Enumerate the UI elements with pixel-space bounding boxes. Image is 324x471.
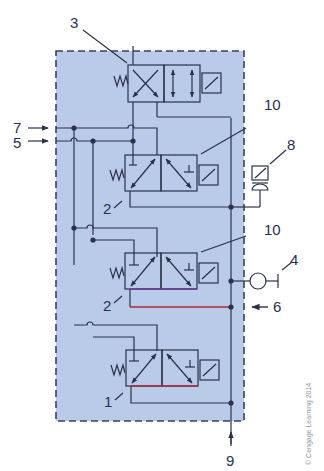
label-2-upper: 2 <box>103 200 111 217</box>
label-3: 3 <box>70 14 78 31</box>
label-2-middle: 2 <box>103 297 111 314</box>
label-8: 8 <box>287 136 295 153</box>
label-10-middle: 10 <box>264 221 281 238</box>
label-1: 1 <box>104 393 112 410</box>
label-4: 4 <box>290 251 298 268</box>
manifold-panel <box>56 51 244 421</box>
copyright: © Cengage Learning 2014 <box>305 383 313 465</box>
label-5: 5 <box>13 134 21 151</box>
label-9: 9 <box>226 452 234 469</box>
label-6: 6 <box>273 298 281 315</box>
label-10-top: 10 <box>264 96 281 113</box>
circuit-diagram: 3 7 5 10 8 2 10 4 2 6 1 9 © Cengage Lear… <box>0 0 324 471</box>
